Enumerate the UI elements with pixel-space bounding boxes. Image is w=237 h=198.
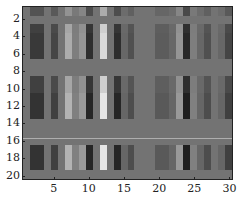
heatmap-cell — [107, 33, 114, 42]
heatmap-cell — [107, 136, 114, 145]
heatmap-cell — [218, 127, 225, 136]
heatmap-cell — [155, 76, 162, 85]
heatmap-cell — [37, 76, 44, 85]
heatmap-cell — [65, 127, 72, 136]
heatmap-cell — [51, 162, 58, 171]
heatmap-cell — [114, 41, 121, 50]
heatmap-cell — [162, 170, 169, 179]
heatmap-cell — [107, 127, 114, 136]
heatmap-cell — [141, 76, 148, 85]
heatmap-cell — [148, 110, 155, 119]
heatmap-cell — [141, 33, 148, 42]
heatmap-cell — [100, 76, 107, 85]
heatmap-cell — [30, 136, 37, 145]
x-tick-label: 30 — [219, 183, 237, 194]
heatmap-cell — [44, 145, 51, 154]
heatmap-cell — [58, 33, 65, 42]
heatmap-cell — [169, 33, 176, 42]
heatmap-cell — [141, 84, 148, 93]
heatmap-cell — [121, 50, 128, 59]
heatmap-cell — [190, 24, 197, 33]
heatmap-cell — [79, 59, 86, 68]
heatmap-cell — [148, 102, 155, 111]
heatmap-cell — [51, 136, 58, 145]
heatmap-cell — [128, 50, 135, 59]
heatmap-cell — [218, 162, 225, 171]
heatmap-cell — [107, 50, 114, 59]
heatmap-cell — [190, 145, 197, 154]
heatmap-cell — [211, 102, 218, 111]
heatmap-cell — [155, 136, 162, 145]
heatmap-cell — [218, 33, 225, 42]
heatmap-cell — [148, 153, 155, 162]
heatmap-cell — [176, 84, 183, 93]
heatmap-cell — [72, 50, 79, 59]
heatmap-cell — [183, 84, 190, 93]
heatmap-cell — [148, 170, 155, 179]
heatmap-cell — [225, 33, 232, 42]
heatmap-cell — [100, 153, 107, 162]
heatmap-cell — [211, 67, 218, 76]
heatmap-cell — [218, 136, 225, 145]
heatmap-cell — [155, 110, 162, 119]
heatmap-cell — [44, 93, 51, 102]
heatmap-cell — [128, 93, 135, 102]
heatmap-cell — [79, 170, 86, 179]
heatmap-cell — [204, 93, 211, 102]
heatmap-cell — [93, 119, 100, 128]
heatmap-cell — [86, 24, 93, 33]
heatmap-cell — [44, 50, 51, 59]
heatmap-cell — [134, 16, 141, 25]
heatmap-cell — [183, 170, 190, 179]
heatmap-cell — [65, 67, 72, 76]
heatmap-cell — [128, 162, 135, 171]
heatmap-cell — [44, 136, 51, 145]
heatmap-cell — [107, 24, 114, 33]
x-tick-label: 15 — [114, 183, 134, 194]
heatmap-cell — [51, 119, 58, 128]
heatmap-cell — [183, 162, 190, 171]
heatmap-cell — [93, 33, 100, 42]
heatmap-cell — [211, 16, 218, 25]
heatmap-cell — [183, 145, 190, 154]
heatmap-cell — [134, 67, 141, 76]
heatmap-cell — [58, 16, 65, 25]
heatmap-cell — [79, 24, 86, 33]
heatmap-cell — [44, 162, 51, 171]
heatmap-cell — [225, 24, 232, 33]
heatmap-cell — [72, 33, 79, 42]
heatmap-cell — [51, 24, 58, 33]
heatmap-cell — [169, 84, 176, 93]
heatmap-cell — [148, 162, 155, 171]
heatmap-cell — [155, 67, 162, 76]
heatmap-cell — [51, 93, 58, 102]
heatmap-cell — [65, 119, 72, 128]
heatmap-cell — [204, 41, 211, 50]
heatmap-cell — [86, 67, 93, 76]
heatmap-cell — [128, 170, 135, 179]
heatmap-cell — [211, 127, 218, 136]
heatmap-cell — [204, 170, 211, 179]
heatmap-cell — [93, 41, 100, 50]
heatmap-cell — [114, 33, 121, 42]
heatmap-cell — [23, 24, 30, 33]
heatmap-cell — [176, 127, 183, 136]
heatmap-cell — [218, 16, 225, 25]
heatmap-cell — [204, 67, 211, 76]
heatmap-cell — [225, 50, 232, 59]
heatmap-cell — [100, 162, 107, 171]
heatmap-cell — [176, 170, 183, 179]
heatmap-cell — [128, 41, 135, 50]
y-tick-mark — [22, 54, 25, 55]
heatmap-cell — [37, 127, 44, 136]
heatmap-cell — [204, 153, 211, 162]
heatmap-cell — [65, 170, 72, 179]
heatmap-cell — [72, 16, 79, 25]
heatmap-cell — [211, 50, 218, 59]
heatmap-cell — [162, 16, 169, 25]
heatmap-cell — [134, 93, 141, 102]
heatmap-cell — [30, 119, 37, 128]
heatmap-cell — [169, 50, 176, 59]
heatmap-cell — [44, 170, 51, 179]
heatmap-cell — [114, 50, 121, 59]
